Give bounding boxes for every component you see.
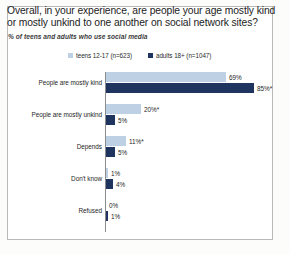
chart-title-line-1: Overall, in your experience, are people … [7,5,265,17]
bar-value-teens: 0% [109,202,118,209]
category-label: Don't know [0,175,102,182]
legend-item-adults: adults 18+ (n=1047) [148,52,211,59]
bar-row-adults: 5% [106,147,127,157]
bar-adults [106,83,254,93]
category-label: People are mostly unkind [0,111,102,118]
category-label: People are mostly kind [0,79,102,86]
bar-row-teens: 0% [106,200,118,210]
bar-value-adults: 1% [111,213,120,220]
bar-teens [106,104,141,114]
chart-legend: teens 12-17 (n=623) adults 18+ (n=1047) [68,52,211,59]
bar-group: People are mostly kind 69% 85%* [8,70,270,100]
legend-swatch-adults [148,53,153,58]
bar-teens [106,168,108,178]
bar-row-teens: 1% [106,168,120,178]
bar-group: Depends 11%* 5% [8,134,270,164]
bar-value-teens: 69% [229,74,242,81]
bar-value-adults: 5% [118,117,127,124]
chart-title-line-2: or mostly unkind to one another on socia… [7,17,265,29]
bar-value-teens: 1% [111,170,120,177]
legend-label-adults: adults 18+ (n=1047) [156,52,211,59]
category-label: Refused [0,207,102,214]
bar-row-adults: 4% [106,179,125,189]
bar-value-teens: 20%* [144,106,159,113]
bar-row-adults: 1% [106,211,120,221]
bar-row-teens: 20%* [106,104,159,114]
plot-area: People are mostly kind 69% 85%* People a… [8,70,270,236]
legend-label-teens: teens 12-17 (n=623) [76,52,132,59]
bar-row-teens: 69% [106,72,242,82]
chart-subtitle: % of teens and adults who use social med… [8,33,148,40]
bar-group: Don't know 1% 4% [8,166,270,196]
bar-adults [106,147,115,157]
bar-adults [106,179,113,189]
legend-swatch-teens [68,53,73,58]
bar-value-adults: 5% [118,149,127,156]
bar-row-adults: 5% [106,115,127,125]
bar-adults [106,115,115,125]
legend-item-teens: teens 12-17 (n=623) [68,52,132,59]
category-label: Depends [0,143,102,150]
bar-group: People are mostly unkind 20%* 5% [8,102,270,132]
bar-row-adults: 85%* [106,83,272,93]
bar-value-adults: 4% [116,181,125,188]
bar-teens [106,72,226,82]
bar-group: Refused 0% 1% [8,198,270,228]
bar-value-adults: 85%* [257,85,272,92]
chart-title: Overall, in your experience, are people … [7,5,265,30]
bar-adults [106,211,108,221]
bar-value-teens: 11%* [129,138,144,145]
bar-teens [106,136,126,146]
bar-row-teens: 11%* [106,136,144,146]
